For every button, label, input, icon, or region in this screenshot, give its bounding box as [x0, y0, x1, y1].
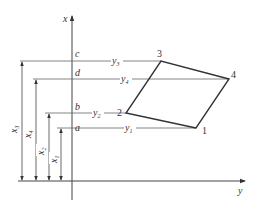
- x2-label: x2: [35, 144, 47, 156]
- vertex-label-4: 4: [231, 69, 236, 80]
- point-label-c: c: [75, 48, 80, 59]
- point-label-b: b: [75, 101, 80, 112]
- y2-label: y2: [92, 106, 104, 119]
- y3-label: y3: [111, 54, 123, 67]
- y-axis-label: y: [237, 185, 243, 196]
- y1-label: y1: [124, 121, 136, 134]
- point-label-d: d: [75, 67, 81, 78]
- x-axis-label: x: [62, 13, 68, 24]
- vertex-label-3: 3: [157, 48, 162, 59]
- y4-label: y4: [120, 72, 132, 85]
- x3-label: x3: [8, 122, 20, 134]
- x4-label: x4: [22, 127, 34, 139]
- vertex-label-1: 1: [202, 125, 207, 136]
- point-label-a: a: [75, 122, 80, 133]
- x1-label: x1: [48, 152, 60, 164]
- quadrilateral: [126, 61, 229, 128]
- vertex-label-2: 2: [117, 107, 122, 118]
- quadrilateral-diagram: x y c d b a y3 y4 y2 y1 3 4 2 1 x3 x4 x2…: [0, 0, 254, 211]
